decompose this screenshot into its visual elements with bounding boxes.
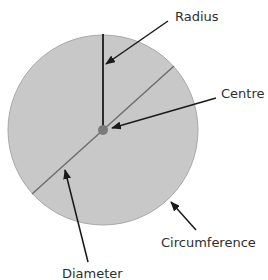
diameter-label: Diameter — [62, 266, 123, 280]
circumference-arrow — [171, 202, 196, 230]
circumference-label: Circumference — [161, 235, 256, 250]
circle-diagram: Radius Centre Circumference Diameter — [0, 0, 268, 280]
centre-label: Centre — [221, 86, 264, 101]
radius-label: Radius — [175, 9, 219, 24]
centre-point — [98, 125, 108, 135]
